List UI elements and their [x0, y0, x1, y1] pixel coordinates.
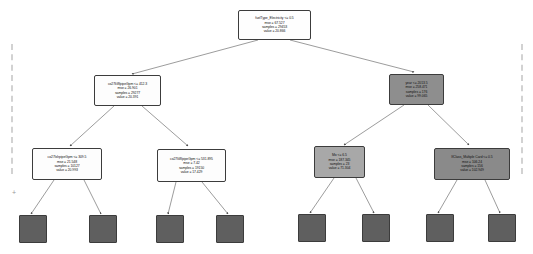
node-value: value = 20.391	[97, 95, 158, 99]
tree-edge	[70, 106, 114, 146]
node-value: value = 20.866	[241, 29, 308, 33]
tree-edge	[438, 180, 457, 213]
tree-node-internal[interactable]: IfClass_Multiple Card <= 0.5 mse = 106.2…	[434, 148, 510, 180]
tree-node-internal[interactable]: Mo <= 6.5 mse = 187.345 samples = 23 val…	[314, 146, 365, 178]
tree-node-leaf[interactable]	[89, 215, 117, 243]
tree-node-leaf[interactable]	[156, 215, 184, 243]
tree-edge	[485, 180, 500, 213]
node-value: value = 17.429	[160, 170, 223, 174]
tree-edge	[344, 105, 404, 145]
tree-node-root[interactable]: fuelType_Electricity <= 0.5 mse = 67.527…	[238, 10, 311, 40]
tree-node-leaf[interactable]	[19, 215, 47, 243]
tree-node-leaf[interactable]	[298, 214, 326, 242]
tree-node-leaf[interactable]	[216, 215, 244, 243]
tree-node-internal[interactable]: co27kWpipeGpm <= 531.895 mse = 7.42 samp…	[157, 149, 226, 182]
node-value: value = 71.304	[317, 166, 362, 170]
node-value: value = 102.949	[437, 168, 507, 172]
decision-tree-figure: +	[0, 0, 533, 254]
tree-edge	[168, 182, 176, 214]
tree-edge	[202, 182, 228, 214]
tree-node-leaf[interactable]	[362, 214, 390, 242]
tree-edge	[356, 178, 374, 213]
tree-node-internal[interactable]: co27lxIrpipeGpm <= 309.5 mse = 21.548 sa…	[32, 148, 102, 180]
tree-edge	[132, 40, 258, 74]
tree-node-internal[interactable]: co27kWpipeGpm <= 412.3 mse = 26.901 samp…	[94, 75, 161, 106]
tree-node-leaf[interactable]	[426, 214, 454, 242]
tree-edge	[31, 180, 54, 214]
node-value: value = 99.065	[392, 94, 441, 98]
tree-edge	[290, 40, 414, 72]
tree-edge	[142, 106, 188, 146]
tree-node-internal[interactable]: year <= 2013.5 mse = 258.471 samples = 1…	[389, 74, 444, 105]
tree-node-leaf[interactable]	[488, 214, 516, 242]
tree-edge	[310, 178, 334, 213]
tree-edge	[84, 180, 101, 214]
tree-edge	[428, 105, 469, 145]
node-value: value = 20.993	[35, 168, 99, 172]
